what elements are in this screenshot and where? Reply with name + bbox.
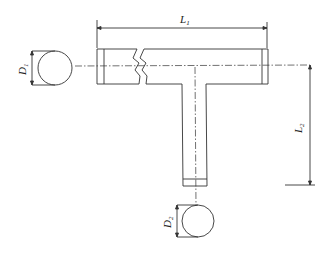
t-pipe-diagram: L1 D1 D2 L2	[0, 0, 331, 254]
main-pipe	[97, 49, 268, 84]
end-view-d2	[176, 205, 215, 237]
branch-pipe	[182, 84, 207, 186]
centerlines	[75, 65, 310, 206]
label-d2: D2	[161, 216, 175, 229]
label-l1: L1	[179, 13, 190, 27]
label-l2: L2	[292, 123, 306, 134]
label-d1: D1	[16, 64, 30, 76]
end-view-d1	[31, 51, 73, 85]
